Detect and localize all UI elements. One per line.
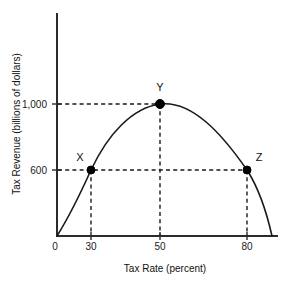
x-tick-label-0: 0: [52, 241, 58, 252]
x-tick-label-50: 50: [154, 241, 166, 252]
point-label-z: Z: [256, 151, 263, 163]
x-axis-title: Tax Rate (percent): [124, 263, 206, 274]
y-tick-label-1000: 1,000: [22, 99, 47, 110]
laffer-curve-chart: X Y Z 1,000 600 0 30 50 80 Tax Rate (per…: [0, 0, 295, 288]
data-point-y: [156, 100, 165, 109]
point-label-x: X: [76, 151, 84, 163]
chart-canvas: X Y Z 1,000 600 0 30 50 80 Tax Rate (per…: [0, 0, 295, 288]
point-label-y: Y: [156, 81, 164, 93]
data-point-z: [243, 166, 251, 174]
y-tick-label-600: 600: [30, 165, 47, 176]
x-tick-label-30: 30: [85, 241, 97, 252]
y-axis-title: Tax Revenue (billions of dollars): [11, 53, 22, 195]
x-tick-label-80: 80: [241, 241, 253, 252]
data-point-x: [87, 166, 95, 174]
